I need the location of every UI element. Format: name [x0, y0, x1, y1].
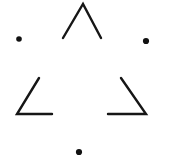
illusory-triangle-figure — [0, 0, 181, 165]
figure-canvas — [0, 0, 181, 165]
bottom-dot-mark — [76, 149, 82, 155]
figure-background — [0, 0, 181, 165]
left-dot-mark — [16, 36, 22, 42]
right-dot-mark — [143, 38, 149, 44]
